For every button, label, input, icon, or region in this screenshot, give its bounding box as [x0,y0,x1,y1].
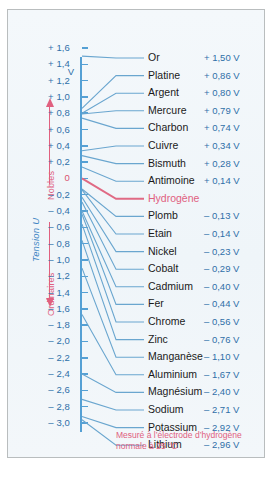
leader-line [82,399,144,410]
leader-line [82,76,144,109]
leader-line [82,416,144,427]
element-name: Cobalt [148,262,178,274]
element-voltage-value: – 0,40 V [204,281,262,292]
element-name: Zinc [148,333,168,345]
element-voltage-value: + 0,28 V [204,158,262,169]
element-name: Sodium [148,403,184,415]
element-name: Hydrogène [148,192,199,204]
element-voltage-value: + 0,34 V [204,140,262,151]
element-voltage-value: + 0,80 V [204,87,262,98]
leader-line [82,111,144,114]
element-voltage-value: – 0,44 V [204,298,262,309]
element-name: Cadmium [148,280,193,292]
leader-line [82,197,144,251]
element-name: Magnésium [148,385,202,397]
element-name: Mercure [148,104,187,116]
leader-line [82,118,144,128]
element-name: Argent [148,86,179,98]
element-voltage-value: + 1,50 V [204,52,262,63]
element-voltage-value: + 0,79 V [204,105,262,116]
electrochemical-series-figure: Tension U Nobles Ordinaires V + 1,6+ 1,4… [0,0,278,479]
element-voltage-value: – 1,67 V [204,369,262,380]
element-name: Bismuth [148,157,186,169]
element-name: Fer [148,297,164,309]
element-voltage-value: – 0,23 V [204,246,262,257]
element-voltage-value: + 0,74 V [204,122,262,133]
element-voltage-value: – 2,71 V [204,404,262,415]
element-name: Charbon [148,121,188,133]
leader-line [82,240,144,339]
element-name: Aluminium [148,368,197,380]
leader-line [82,214,144,304]
element-name: Manganèse [148,350,203,362]
leader-line [82,211,144,287]
leader-line [82,146,144,151]
element-name: Chrome [148,315,185,327]
element-voltage-value: – 0,13 V [204,210,262,221]
leader-line [82,315,144,375]
element-voltage-value: – 0,76 V [204,334,262,345]
leader-line [82,93,144,113]
element-name: Platine [148,69,180,81]
figure-plate: Tension U Nobles Ordinaires V + 1,6+ 1,4… [7,9,265,458]
element-name: Plomb [148,209,178,221]
element-name: Etain [148,227,172,239]
leader-line [82,56,144,58]
element-voltage-value: – 0,56 V [204,316,262,327]
element-voltage-value: – 2,40 V [204,386,262,397]
element-name: Or [148,51,160,63]
element-voltage-value: – 0,14 V [204,228,262,239]
leader-line [82,156,144,164]
element-voltage-value: – 1,10 V [204,351,262,362]
element-name: Antimoine [148,174,195,186]
element-voltage-value: – 0,29 V [204,263,262,274]
leader-line [82,374,144,392]
leader-line [82,167,144,181]
figure-caption: Mesuré à l’électrode d’hydrogène normale… [116,430,266,452]
element-voltage-value: + 0,86 V [204,70,262,81]
element-voltage-value: + 0,14 V [204,175,262,186]
element-name: Cuivre [148,139,178,151]
element-name: Nickel [148,245,177,257]
